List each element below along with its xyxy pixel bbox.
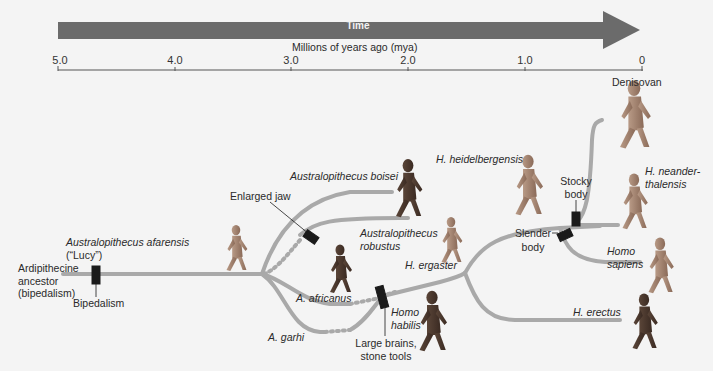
denisovan-figure-icon [620, 81, 651, 149]
time-arrow-label: Time [318, 20, 398, 31]
erectus-label: H. erectus [573, 306, 621, 319]
afarensis-label: Australopithecus afarensis [66, 236, 189, 249]
tick-label: 5.0 [52, 54, 67, 66]
habilis-figure-icon [420, 291, 448, 352]
habilis-label-line2: habilis [391, 319, 421, 332]
large-brains-trait-label-line2: stone tools [354, 350, 418, 363]
ergaster-label: H. ergaster [405, 259, 457, 272]
enlarged-jaw-trait-label: Enlarged jaw [230, 190, 291, 203]
tick-label: 4.0 [167, 54, 182, 66]
stocky-body-marker [572, 212, 580, 226]
habilis-label-line1: Homo [391, 306, 419, 319]
neanderthal-label-line2: thalensis [645, 178, 686, 191]
stocky-body-trait-label-line2: body [555, 188, 597, 201]
tick-label: 0 [639, 54, 645, 66]
afarensis-nickname: (“Lucy”) [66, 249, 102, 262]
phylogeny-branches [63, 120, 640, 332]
neanderthal-label-line1: H. neander- [645, 165, 700, 178]
africanus-label: A. africanus [296, 292, 351, 305]
tick-label: 3.0 [283, 54, 298, 66]
boisei-label: Australopithecus boisei [290, 170, 398, 183]
erectus-figure-icon [633, 293, 658, 349]
sapiens-figure-icon [649, 237, 674, 293]
stocky-body-trait-label-line1: Stocky [555, 175, 597, 188]
large-brains-trait-label-line1: Large brains, [354, 337, 418, 350]
hominin-phylogeny-diagram: Time Millions of years ago (mya) 5.0 4.0… [0, 0, 713, 371]
slender-body-trait-label-line1: Slender [513, 227, 553, 240]
slender-body-trait-label-line2: body [513, 241, 553, 254]
africanus-figure-icon [330, 245, 352, 294]
robustus-label-line1: Australopithecus [360, 227, 438, 240]
denisovan-label: Denisovan [612, 76, 662, 89]
boisei-figure-icon [396, 159, 422, 217]
tick-label: 1.0 [517, 54, 532, 66]
heidelbergensis-label: H. heidelbergensis [436, 153, 523, 166]
ardipithecine-label: Ardipithecine ancestor (bipedalism) [18, 262, 79, 300]
axis-title: Millions of years ago (mya) [292, 41, 417, 54]
robustus-label-line2: robustus [360, 240, 400, 253]
bipedalism-trait-label: Bipedalism [73, 297, 124, 310]
garhi-label: A. garhi [268, 331, 304, 344]
neanderthal-figure-icon [623, 173, 648, 229]
sapiens-label-line2: sapiens [607, 258, 643, 271]
tick-label: 2.0 [400, 54, 415, 66]
ergaster-figure-icon [442, 217, 463, 263]
afarensis-figure-icon [227, 225, 248, 271]
bipedalism-marker [92, 266, 100, 284]
sapiens-label-line1: Homo [607, 245, 635, 258]
time-axis [58, 66, 643, 71]
